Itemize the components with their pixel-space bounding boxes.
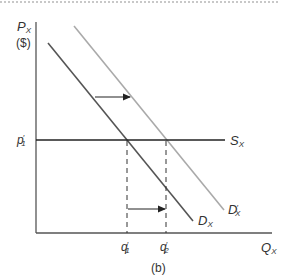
demand-shifted-curve (74, 26, 224, 210)
y-axis-unit: ($) (16, 37, 31, 49)
demand-shifted-label: D′X (228, 203, 240, 218)
q2-tick-sub: 2 (164, 246, 168, 255)
x-axis-label: QX (261, 241, 276, 256)
demand-label-sub: X (207, 220, 212, 229)
demand-curve (48, 43, 193, 221)
supply-curve-label: SX (230, 134, 244, 149)
supply-label-main: S (230, 133, 239, 148)
x-axis-label-main: Q (261, 240, 271, 255)
supply-label-sub: X (239, 140, 244, 149)
y-axis-label-sub: X (26, 26, 31, 35)
price-tick-label: p′1 (17, 134, 26, 148)
demand-label: DX (198, 214, 213, 229)
panel-label-text: (b) (151, 261, 166, 275)
demand-shifted-label-sub: X (235, 209, 240, 218)
q1-tick-sub: 1 (125, 246, 129, 255)
q2-tick-label: q′2 (160, 241, 169, 255)
q1-tick-label: q′1 (121, 241, 130, 255)
panel-label: (b) (151, 262, 166, 274)
y-axis-unit-text: ($) (16, 36, 31, 50)
x-axis-label-sub: X (271, 247, 276, 256)
y-axis-label-main: P (17, 19, 26, 34)
demand-label-main: D (198, 213, 207, 228)
price-tick-sub: 1 (21, 139, 25, 148)
y-axis-label: PX (17, 20, 31, 35)
